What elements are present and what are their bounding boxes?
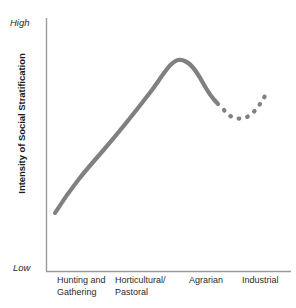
y-axis-title: Intensity of Social Stratification bbox=[16, 39, 27, 209]
x-tick-label-horticultural-pastoral: Horticultural/ Pastoral bbox=[115, 275, 166, 298]
x-tick-label-hunting-and-gathering: Hunting and Gathering bbox=[57, 275, 106, 298]
dotted-projection-curve bbox=[224, 94, 266, 119]
x-tick-label-agrarian: Agrarian bbox=[189, 275, 223, 287]
solid-trend-curve bbox=[55, 60, 218, 213]
x-tick-label-industrial: Industrial bbox=[242, 275, 279, 287]
chart-container: Intensity of Social Stratification High … bbox=[0, 0, 296, 308]
y-axis-high-label: High bbox=[10, 17, 30, 28]
x-axis-tick-labels: Hunting and Gathering Horticultural/ Pas… bbox=[46, 275, 296, 308]
y-axis-low-label: Low bbox=[13, 262, 30, 273]
chart-plot-area bbox=[0, 0, 296, 308]
